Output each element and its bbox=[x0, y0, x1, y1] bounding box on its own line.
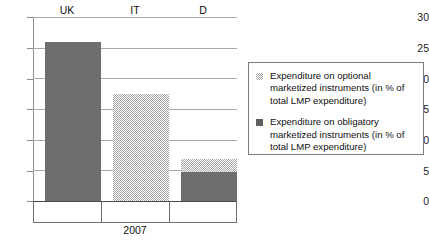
legend-swatch-obligatory-icon bbox=[256, 119, 263, 126]
category-label-uk: UK bbox=[33, 4, 101, 16]
bar-d-segment-obligatory bbox=[181, 172, 237, 201]
legend: Expenditure on optional marketized instr… bbox=[248, 62, 424, 155]
bar-uk-segment-obligatory bbox=[45, 42, 101, 201]
x-axis-year-label: 2007 bbox=[101, 224, 169, 236]
legend-entry-obligatory: Expenditure on obligatory marketized ins… bbox=[256, 116, 417, 153]
legend-label-optional: Expenditure on optional marketized instr… bbox=[270, 70, 404, 106]
y-tick-label-0: 0 bbox=[403, 196, 429, 206]
category-label-it: IT bbox=[101, 4, 169, 16]
legend-entry-optional: Expenditure on optional marketized instr… bbox=[256, 70, 417, 107]
category-separator-1 bbox=[101, 202, 102, 222]
category-separator-2 bbox=[169, 202, 170, 222]
y-tick-label-5: 5 bbox=[403, 166, 429, 176]
category-label-d: D bbox=[169, 4, 237, 16]
bar-d bbox=[181, 159, 237, 201]
y-tick-label-30: 30 bbox=[403, 12, 429, 22]
legend-swatch-optional-icon bbox=[256, 73, 263, 80]
legend-label-obligatory: Expenditure on obligatory marketized ins… bbox=[270, 116, 404, 152]
bar-uk bbox=[45, 42, 101, 201]
gridline-30 bbox=[33, 17, 237, 18]
bar-chart: 30 25 20 15 10 5 0 bbox=[0, 0, 429, 242]
category-axis-band bbox=[33, 201, 237, 223]
bar-it bbox=[113, 94, 169, 201]
y-tick-label-25: 25 bbox=[403, 43, 429, 53]
bar-d-segment-optional bbox=[181, 159, 237, 172]
plot-area bbox=[33, 17, 237, 201]
bar-it-segment-optional bbox=[113, 94, 169, 201]
